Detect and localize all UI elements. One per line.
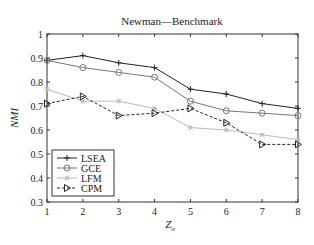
x-tick-label: 4 xyxy=(152,206,157,217)
y-axis-label: NMI xyxy=(8,107,20,130)
y-tick-label: 0.9 xyxy=(31,53,44,64)
x-tick-label: 7 xyxy=(260,206,265,217)
x-tick-label: 1 xyxy=(45,206,50,217)
x-tick-label: 2 xyxy=(80,206,85,217)
x-tick-label: 3 xyxy=(116,206,121,217)
chart-title: Newman—Benchmark xyxy=(121,15,223,27)
series-gce xyxy=(44,57,301,118)
y-tick-label: 0.6 xyxy=(31,125,44,136)
y-tick-label: 0.4 xyxy=(31,173,44,184)
series-lines xyxy=(44,53,302,148)
y-tick-label: 0.8 xyxy=(31,77,44,88)
legend-label: CPM xyxy=(81,183,102,194)
series-lfm xyxy=(45,87,301,142)
y-tick-label: 0.3 xyxy=(31,197,44,208)
y-tick-label: 1 xyxy=(38,29,43,40)
y-tick-label: 0.5 xyxy=(31,149,44,160)
x-tick-label: 8 xyxy=(296,206,301,217)
legend: LSEAGCELFMCPM xyxy=(52,150,114,196)
x-tick-label: 6 xyxy=(224,206,229,217)
x-tick-label: 5 xyxy=(188,206,193,217)
line-chart: Newman—Benchmark 123456780.30.40.50.60.7… xyxy=(0,0,314,245)
y-tick-label: 0.7 xyxy=(31,101,44,112)
x-axis-label: Zo xyxy=(165,218,175,233)
